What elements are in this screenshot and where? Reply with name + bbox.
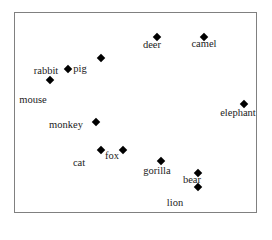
point-label: rabbit bbox=[34, 66, 59, 77]
point-label: bear bbox=[183, 175, 201, 186]
point-label: lion bbox=[167, 198, 183, 209]
point-label: cat bbox=[73, 158, 85, 169]
point-label: elephant bbox=[220, 108, 256, 119]
point-label: monkey bbox=[49, 120, 83, 131]
point-label: camel bbox=[191, 39, 216, 50]
point-label: gorilla bbox=[143, 166, 170, 177]
point-label: mouse bbox=[19, 95, 46, 106]
point-label: deer bbox=[143, 40, 161, 51]
point-label: fox bbox=[105, 151, 119, 162]
point-label: pig bbox=[73, 64, 86, 75]
